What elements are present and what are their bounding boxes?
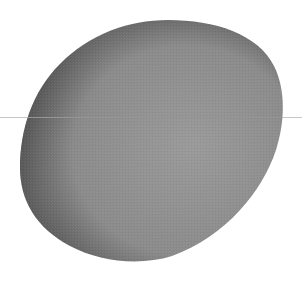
gray-blob-shape (20, 20, 283, 261)
canvas (0, 0, 302, 286)
blob-illustration (0, 0, 302, 286)
